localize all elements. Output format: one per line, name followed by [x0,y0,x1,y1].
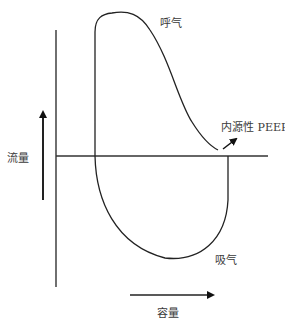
expiration-curve [95,12,218,156]
flow-axis-label: 流量 [7,149,29,165]
volume-axis-label: 容量 [157,304,179,320]
expiration-label: 呼气 [160,14,182,30]
intrinsic-peep-label: 内源性 PEEP [221,118,285,134]
flow-volume-diagram [0,0,285,325]
inspiration-curve [95,156,228,258]
inspiration-label: 吸气 [215,251,237,267]
intrinsic-peep-arrow-icon [223,139,236,149]
